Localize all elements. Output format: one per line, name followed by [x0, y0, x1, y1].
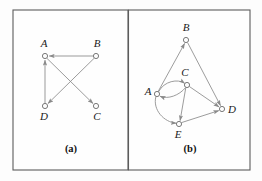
- node-a: [42, 53, 47, 58]
- panel-frames: [13, 10, 250, 170]
- node-label-e: E: [174, 128, 182, 140]
- panel-b-caption: (b): [184, 143, 197, 155]
- graph-figure: A B D C (a): [0, 0, 262, 181]
- node-b: [93, 53, 98, 58]
- node-label-b: B: [183, 21, 190, 33]
- node-label-d: D: [39, 110, 48, 122]
- node-a: [154, 91, 159, 96]
- node-label-c: C: [93, 110, 101, 122]
- node-d: [42, 103, 47, 108]
- node-c: [93, 103, 98, 108]
- node-d: [219, 106, 224, 111]
- node-e: [176, 121, 181, 126]
- panel-a-caption: (a): [65, 143, 78, 155]
- node-b: [183, 37, 188, 42]
- figure-container: A B D C (a): [0, 0, 262, 181]
- node-label-a: A: [40, 37, 48, 49]
- node-label-c: C: [181, 66, 189, 78]
- node-label-b: B: [94, 37, 101, 49]
- node-label-d: D: [227, 103, 236, 115]
- node-c: [184, 82, 189, 87]
- node-label-a: A: [144, 85, 152, 97]
